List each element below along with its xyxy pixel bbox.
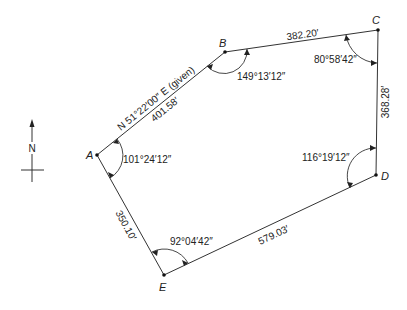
vertex-d-label: D — [381, 170, 389, 182]
length-cd-label: 368.28′ — [380, 86, 391, 119]
length-ea-label: 350.10′ — [113, 208, 138, 242]
north-label: N — [28, 143, 35, 154]
course-ea — [97, 155, 164, 275]
vertex-e-label: E — [159, 281, 167, 293]
angle-a-label: 101°24′12″ — [123, 154, 172, 165]
course-ab — [97, 52, 225, 155]
vertex-e-dot — [162, 273, 166, 277]
course-de — [164, 175, 376, 275]
diagram-svg: N A B C D E N 51°22′00″ E (given) 401.58… — [0, 0, 407, 310]
length-bc-label: 382.20′ — [286, 27, 320, 43]
north-arrow-icon: N — [21, 119, 44, 182]
vertex-a-label: A — [85, 149, 93, 161]
angle-c-label: 80°58′42″ — [314, 54, 357, 65]
vertex-a-dot — [95, 153, 99, 157]
vertex-b-dot — [223, 50, 227, 54]
angle-d-label: 116°19′12″ — [302, 152, 350, 163]
vertex-c-label: C — [372, 14, 380, 26]
vertex-b-label: B — [219, 37, 226, 49]
length-de-label: 579.03′ — [256, 223, 290, 247]
angle-e-label: 92°04′42″ — [170, 236, 213, 247]
course-cd — [376, 30, 378, 175]
angle-b-label: 149°13′12″ — [237, 71, 286, 82]
vertex-d-dot — [374, 173, 378, 177]
vertex-c-dot — [376, 28, 380, 32]
traverse-diagram: N A B C D E N 51°22′00″ E (given) 401.58… — [0, 0, 407, 310]
